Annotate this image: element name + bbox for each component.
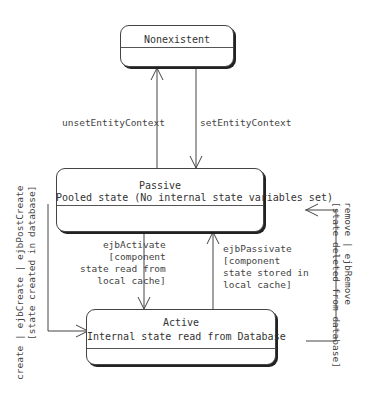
transition-label-remove: remove | ejbRemove [state deleted from d…: [330, 202, 354, 368]
transition-label-create: create | ejbCreate | ejbPostCreate [stat…: [14, 186, 38, 380]
state-nonexistent: Nonexistent: [120, 25, 234, 67]
state-divider: [57, 205, 263, 206]
state-active: Active Internal state read from Database: [86, 309, 276, 365]
transition-label-ejb-passivate: ejbPassivate [component state stored in …: [223, 243, 309, 291]
transition-label-set-entity-context: setEntityContext: [200, 117, 292, 129]
arrow-ejb-passivate: [207, 232, 219, 309]
transition-label-ejb-activate: ejbActivate [component state read from l…: [80, 239, 166, 287]
state-description: Pooled state (No internal state variable…: [56, 192, 264, 203]
state-divider: [121, 47, 233, 48]
state-description: Internal state read from Database: [87, 331, 275, 342]
state-title: Passive: [57, 180, 263, 191]
state-divider: [87, 348, 275, 349]
state-passive: Passive Pooled state (No internal state …: [56, 168, 264, 232]
state-title: Nonexistent: [121, 34, 233, 45]
state-title: Active: [87, 317, 275, 328]
transition-label-unset-entity-context: unsetEntityContext: [62, 117, 165, 129]
